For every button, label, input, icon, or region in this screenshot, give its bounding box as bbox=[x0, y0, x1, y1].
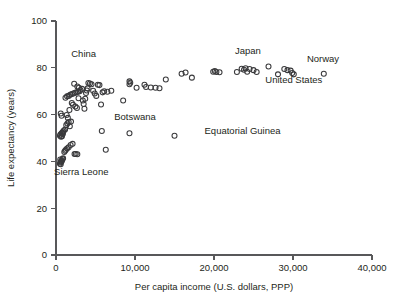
data-point bbox=[217, 70, 222, 75]
x-tick-label: 10,000 bbox=[120, 262, 149, 273]
data-point bbox=[103, 147, 108, 152]
data-point bbox=[81, 102, 86, 107]
data-point bbox=[134, 85, 139, 90]
plot-area: 020406080100 010,00020,00030,00040,000 C… bbox=[0, 0, 397, 295]
data-point bbox=[121, 98, 126, 103]
data-point bbox=[76, 96, 81, 101]
y-tick-label: 80 bbox=[36, 62, 47, 73]
y-tick-group: 020406080100 bbox=[31, 15, 56, 260]
x-tick-label: 40,000 bbox=[357, 262, 386, 273]
x-axis-title: Per capita income (U.S. dollars, PPP) bbox=[135, 281, 293, 292]
point-annotation: Norway bbox=[307, 53, 339, 64]
data-point bbox=[266, 64, 271, 69]
data-point bbox=[67, 107, 72, 112]
data-point bbox=[99, 128, 104, 133]
scatter-chart: 020406080100 010,00020,00030,00040,000 C… bbox=[0, 0, 397, 295]
point-annotation: Japan bbox=[235, 45, 261, 56]
data-point bbox=[234, 70, 239, 75]
x-tick-group: 010,00020,00030,00040,000 bbox=[53, 255, 386, 273]
point-annotation: China bbox=[71, 48, 97, 59]
data-point bbox=[282, 66, 287, 71]
annotation-group: ChinaSierra LeoneBotswanaEquatorial Guin… bbox=[54, 45, 339, 178]
x-tick-label: 20,000 bbox=[199, 262, 228, 273]
y-axis-title: Life expectancy (years) bbox=[5, 89, 16, 187]
y-tick-label: 20 bbox=[36, 203, 47, 214]
data-point bbox=[72, 81, 77, 86]
y-tick-label: 100 bbox=[31, 15, 47, 26]
point-annotation: Sierra Leone bbox=[54, 166, 108, 177]
data-point bbox=[99, 102, 104, 107]
data-point bbox=[163, 77, 168, 82]
x-tick-label: 30,000 bbox=[278, 262, 307, 273]
point-annotation: Equatorial Guinea bbox=[205, 125, 282, 136]
y-tick-label: 60 bbox=[36, 109, 47, 120]
y-tick-label: 40 bbox=[36, 156, 47, 167]
y-tick-label: 0 bbox=[42, 249, 47, 260]
data-point bbox=[127, 131, 132, 136]
data-point bbox=[189, 75, 194, 80]
point-annotation: United States bbox=[265, 74, 322, 85]
x-tick-label: 0 bbox=[53, 262, 58, 273]
point-annotation: Botswana bbox=[114, 111, 156, 122]
data-point bbox=[82, 106, 87, 111]
data-point bbox=[172, 133, 177, 138]
